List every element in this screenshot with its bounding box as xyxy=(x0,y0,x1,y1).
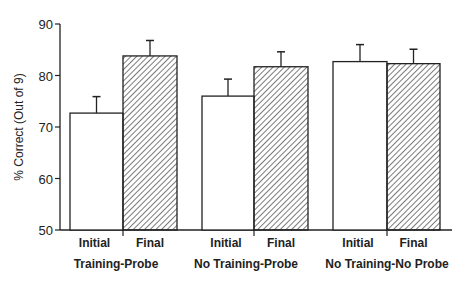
y-axis-label: % Correct (Out of 9) xyxy=(12,73,26,180)
y-tick-label: 70 xyxy=(39,120,53,135)
bar-initial xyxy=(202,96,254,230)
bar-final xyxy=(123,56,177,230)
bar-final xyxy=(254,67,308,230)
group-label: No Training-Probe xyxy=(194,257,298,271)
y-tick-label: 80 xyxy=(39,69,53,84)
bar-initial xyxy=(70,113,123,230)
bar-final xyxy=(387,64,440,230)
category-label: Initial xyxy=(79,236,110,250)
category-label: Initial xyxy=(342,236,373,250)
y-tick-label: 60 xyxy=(39,172,53,187)
y-tick-label: 90 xyxy=(39,17,53,32)
category-label: Final xyxy=(267,236,295,250)
category-label: Final xyxy=(399,236,427,250)
group-label: No Training-No Probe xyxy=(325,257,449,271)
category-label: Final xyxy=(136,236,164,250)
bar-initial xyxy=(333,62,387,230)
plot-area: 5060708090InitialFinalTraining-ProbeInit… xyxy=(39,17,452,271)
bar-chart: 5060708090InitialFinalTraining-ProbeInit… xyxy=(0,0,471,282)
category-label: Initial xyxy=(210,236,241,250)
group-label: Training-Probe xyxy=(74,257,159,271)
y-tick-label: 50 xyxy=(39,223,53,238)
